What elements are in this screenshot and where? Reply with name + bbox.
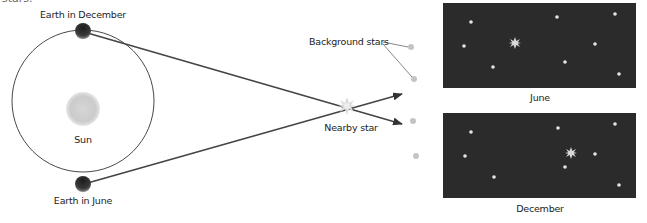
nearby-star-icon xyxy=(338,97,356,115)
label-panel-december: December xyxy=(516,203,564,214)
label-nearby-star: Nearby star xyxy=(324,122,378,133)
label-background-stars: Background stars xyxy=(309,36,389,47)
parallax-diagram xyxy=(0,0,647,223)
earth-december-icon xyxy=(75,23,91,39)
label-earth-june: Earth in June xyxy=(54,195,112,206)
sun-icon xyxy=(66,92,100,126)
sight-line-june xyxy=(84,94,402,184)
sky-panel-december xyxy=(443,113,636,198)
background-stars-outside xyxy=(408,44,419,159)
sky-panel-june xyxy=(443,3,636,88)
label-panel-june: June xyxy=(530,92,550,103)
label-sun: Sun xyxy=(74,134,91,145)
bg-stars-pointer-2 xyxy=(383,44,412,77)
label-earth-december: Earth in December xyxy=(40,9,126,20)
earth-june-icon xyxy=(75,176,91,192)
